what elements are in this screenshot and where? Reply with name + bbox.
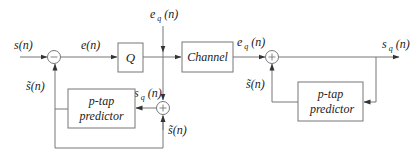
encoder-predictor-line2: predictor <box>78 109 124 123</box>
quant-error-label: eq(n) <box>150 7 178 23</box>
predicted-label-bottom: s̃(n) <box>168 123 187 137</box>
predicted-label-left: s̃(n) <box>26 79 45 93</box>
add-junction-decoder <box>266 51 279 64</box>
quantizer-label: Q <box>126 50 136 65</box>
decoder-predictor-line2: predictor <box>309 102 355 116</box>
decoder-prediction-wire <box>272 64 298 102</box>
channel-label: Channel <box>187 50 228 64</box>
decoder-predicted-label: s̃(n) <box>246 77 265 91</box>
subtract-junction <box>48 51 61 64</box>
error-label: e(n) <box>81 38 100 52</box>
output-label: sq(n) <box>382 37 410 53</box>
decoder-feedback-wire <box>364 57 376 102</box>
decoder-predictor-line1: p-tap <box>317 87 343 101</box>
decoder-input-label: eq(n) <box>237 35 265 51</box>
encoder-predictor-line1: p-tap <box>88 94 114 108</box>
input-label: s(n) <box>14 38 33 52</box>
recon-label: sq(n) <box>134 86 162 102</box>
decoder-predictor-block: p-tap predictor <box>298 82 363 121</box>
channel-block: Channel <box>182 42 233 72</box>
quantizer-block: Q <box>118 43 143 72</box>
add-junction-encoder <box>157 102 170 115</box>
dpcm-block-diagram: s(n) e(n) Q eq(n) sq(n) p-tap predictor … <box>0 0 420 156</box>
encoder-predictor-block: p-tap predictor <box>68 89 135 128</box>
